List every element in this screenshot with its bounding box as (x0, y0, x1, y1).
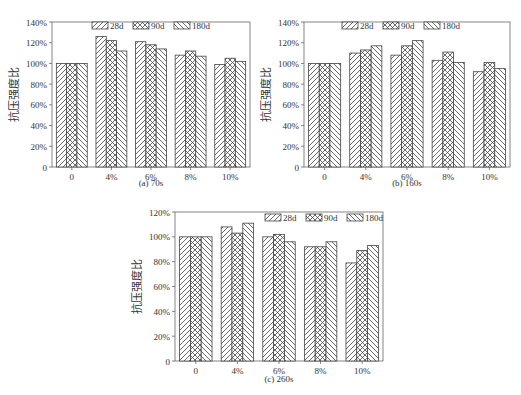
x-tick-label: 4% (105, 172, 118, 182)
x-tick-label: 8% (185, 172, 198, 182)
bar-90d (67, 63, 77, 167)
y-tick-label: 80% (31, 80, 48, 90)
bar-90d (274, 234, 285, 361)
y-tick-label: 140% (278, 18, 300, 28)
bar-180d (326, 242, 337, 361)
y-tick-label: 100% (26, 59, 48, 69)
bar-180d (156, 49, 166, 167)
y-tick-label: 40% (283, 121, 300, 131)
legend-label: 28d (360, 21, 374, 31)
y-tick-label: 20% (31, 142, 48, 152)
y-tick-label: 100% (278, 59, 300, 69)
bar-180d (117, 51, 127, 167)
bar-180d (77, 63, 87, 167)
bar-28d (215, 64, 225, 167)
legend: 28d90d180d (265, 213, 384, 223)
x-tick-label: 10% (354, 366, 371, 376)
bar-90d (185, 51, 195, 167)
legend-swatch-90d (133, 22, 149, 29)
legend-swatch-90d (306, 214, 322, 221)
bar-chart-c: 020%40%60%80%100%120%抗压强度比04%6%8%10%28d9… (130, 190, 410, 395)
bar-180d (196, 56, 206, 167)
legend-swatch-90d (383, 22, 399, 29)
legend-swatch-28d (342, 22, 358, 29)
y-tick-label: 120% (278, 38, 300, 48)
legend-label: 28d (283, 213, 297, 223)
legend-swatch-180d (424, 22, 440, 29)
x-tick-label: 0 (194, 366, 199, 376)
bar-chart-b: 020%40%60%80%100%120%140%抗压强度比04%6%8%10%… (260, 0, 521, 190)
bar-28d (180, 237, 191, 361)
legend-swatch-180d (347, 214, 363, 221)
bar-90d (315, 247, 326, 361)
bar-28d (473, 72, 484, 167)
y-axis-label: 抗压强度比 (7, 67, 20, 122)
y-tick-label: 40% (31, 121, 48, 131)
plot-area: 020%40%60%80%100%120%140%抗压强度比04%6%8%10% (7, 18, 250, 183)
chart-caption: (b) 160s (392, 178, 422, 188)
bar-28d (96, 37, 106, 168)
bar-28d (56, 63, 66, 167)
y-tick-label: 120% (149, 208, 171, 218)
x-tick-label: 0 (70, 172, 75, 182)
bar-90d (484, 62, 495, 167)
plot-area: 020%40%60%80%100%120%抗压强度比04%6%8%10% (130, 208, 383, 377)
y-axis-label: 抗压强度比 (260, 67, 272, 122)
y-tick-label: 0 (295, 163, 300, 173)
legend-label: 180d (365, 213, 384, 223)
y-tick-label: 20% (154, 332, 171, 342)
y-tick-label: 40% (154, 307, 171, 317)
bar-28d (432, 60, 443, 167)
y-tick-label: 60% (31, 100, 48, 110)
x-tick-label: 10% (481, 172, 498, 182)
y-tick-label: 20% (283, 142, 300, 152)
bar-90d (146, 45, 156, 167)
x-tick-label: 8% (315, 366, 328, 376)
y-tick-label: 140% (26, 18, 48, 28)
bar-180d (368, 246, 379, 361)
bar-28d (309, 63, 320, 167)
bar-90d (443, 52, 454, 167)
legend-swatch-28d (92, 22, 108, 29)
bar-28d (346, 263, 357, 361)
bar-28d (391, 55, 402, 167)
legend-label: 28d (110, 21, 124, 31)
bar-90d (360, 50, 371, 167)
bar-28d (221, 227, 232, 361)
chart-panel-c: 020%40%60%80%100%120%抗压强度比04%6%8%10%28d9… (130, 190, 410, 395)
bar-180d (235, 61, 245, 167)
legend: 28d90d180d (342, 21, 461, 31)
bar-90d (232, 233, 243, 361)
bar-180d (371, 46, 382, 167)
y-tick-label: 80% (283, 80, 300, 90)
bar-180d (454, 62, 465, 167)
x-tick-label: 4% (360, 172, 373, 182)
chart-caption: (a) 70s (139, 178, 164, 188)
bar-chart-a: 020%40%60%80%100%120%140%抗压强度比04%6%8%10%… (0, 0, 260, 190)
legend-label: 90d (401, 21, 415, 31)
bar-180d (243, 223, 254, 361)
legend: 28d90d180d (92, 21, 211, 31)
bar-180d (330, 63, 341, 167)
y-tick-label: 100% (149, 232, 171, 242)
bar-180d (284, 242, 295, 361)
bar-180d (201, 237, 212, 361)
bar-180d (495, 69, 506, 167)
legend-label: 90d (151, 21, 165, 31)
x-tick-label: 0 (322, 172, 327, 182)
bar-90d (319, 63, 330, 167)
chart-panel-a: 020%40%60%80%100%120%140%抗压强度比04%6%8%10%… (0, 0, 260, 190)
chart-caption: (c) 260s (264, 374, 294, 384)
bar-28d (136, 42, 146, 167)
y-tick-label: 0 (43, 163, 48, 173)
y-tick-label: 60% (283, 100, 300, 110)
legend-label: 180d (442, 21, 461, 31)
legend-label: 90d (324, 213, 338, 223)
y-axis-label: 抗压强度比 (130, 259, 143, 314)
bar-90d (225, 58, 235, 167)
bar-28d (304, 247, 315, 361)
legend-swatch-28d (265, 214, 281, 221)
bar-90d (106, 41, 116, 167)
x-tick-label: 8% (442, 172, 455, 182)
y-tick-label: 80% (154, 257, 171, 267)
